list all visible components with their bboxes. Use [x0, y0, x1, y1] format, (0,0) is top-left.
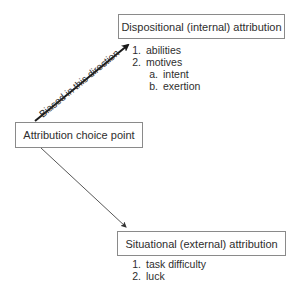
dispositional-attribution-box: Dispositional (internal) attribution	[118, 14, 285, 39]
dispositional-list: 1.abilities 2.motives a.intent b.exertio…	[130, 44, 200, 92]
situational-arrow	[41, 148, 126, 227]
situational-attribution-box: Situational (external) attribution	[117, 231, 286, 256]
list-item: 1.abilities	[130, 44, 200, 56]
dispositional-attribution-label: Dispositional (internal) attribution	[121, 21, 281, 33]
choice-point-box: Attribution choice point	[15, 122, 143, 148]
list-item: 1.task difficulty	[130, 258, 206, 270]
choice-point-label: Attribution choice point	[23, 129, 134, 141]
list-item: 2.motives	[130, 56, 200, 68]
situational-list: 1.task difficulty 2.luck	[130, 258, 206, 282]
situational-attribution-label: Situational (external) attribution	[125, 238, 277, 250]
list-subitem: a.intent	[130, 68, 200, 80]
list-item: 2.luck	[130, 270, 206, 282]
list-subitem: b.exertion	[130, 80, 200, 92]
